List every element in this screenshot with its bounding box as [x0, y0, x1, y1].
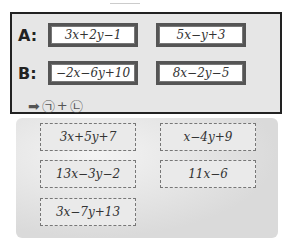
- operation-hint: ➡ ㉠ + ㉡: [28, 96, 83, 115]
- expression-box: −2x−6y+10: [48, 61, 138, 85]
- arrow-icon: ➡: [28, 98, 40, 114]
- answer-option[interactable]: x−4y+9: [160, 123, 256, 151]
- circled-label-2: ㉡: [70, 96, 83, 115]
- expression-box: 8x−2y−5: [156, 61, 246, 85]
- expression-box: 3x+2y−1: [48, 23, 138, 47]
- expression-panel: A: 3x+2y−1 5x−y+3 B: −2x−6y+10 8x−2y−5 ➡…: [10, 12, 282, 114]
- row-label-b: B:: [18, 64, 48, 83]
- row-a: A: 3x+2y−1 5x−y+3: [18, 20, 264, 50]
- plus-sign: +: [57, 98, 68, 113]
- answer-option[interactable]: 11x−6: [160, 160, 256, 188]
- decorative-line: [110, 3, 140, 4]
- answer-option[interactable]: 3x−7y+13: [40, 198, 136, 226]
- answer-option[interactable]: 3x+5y+7: [40, 123, 136, 151]
- circled-label-1: ㉠: [42, 96, 55, 115]
- row-b: B: −2x−6y+10 8x−2y−5: [18, 58, 264, 88]
- expression-box: 5x−y+3: [156, 23, 246, 47]
- answer-option[interactable]: 13x−3y−2: [40, 160, 136, 188]
- row-label-a: A:: [18, 26, 48, 45]
